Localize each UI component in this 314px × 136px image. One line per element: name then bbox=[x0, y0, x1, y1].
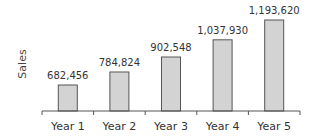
category-label: Year 3 bbox=[153, 120, 188, 133]
y-axis-label: Sales bbox=[16, 49, 29, 79]
value-label: 784,824 bbox=[99, 57, 140, 68]
category-label: Year 1 bbox=[50, 120, 85, 133]
sales-bar-chart: Sales Year 1Year 2Year 3Year 4Year 5 682… bbox=[0, 0, 314, 136]
value-label: 902,548 bbox=[150, 42, 191, 53]
value-label: 1,037,930 bbox=[197, 25, 248, 36]
category-label: Year 5 bbox=[256, 120, 291, 133]
x-axis-labels: Year 1Year 2Year 3Year 4Year 5 bbox=[50, 120, 291, 133]
value-label: 1,193,620 bbox=[249, 5, 300, 16]
x-axis-ticks bbox=[42, 111, 300, 115]
bars-group bbox=[58, 20, 283, 111]
bar-year-3 bbox=[162, 57, 181, 111]
category-label: Year 2 bbox=[102, 120, 137, 133]
bar-year-5 bbox=[265, 20, 284, 111]
bar-year-1 bbox=[58, 85, 77, 111]
value-label: 682,456 bbox=[47, 70, 88, 81]
bar-year-2 bbox=[110, 72, 129, 111]
bar-year-4 bbox=[213, 40, 232, 111]
category-label: Year 4 bbox=[205, 120, 240, 133]
